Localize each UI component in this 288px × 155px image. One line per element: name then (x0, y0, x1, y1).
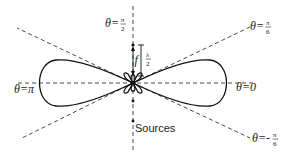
label-lambda-half: λ 2 (146, 51, 152, 68)
source-dot-center (131, 81, 135, 85)
source-dot-lower (132, 100, 135, 103)
svg-text:π: π (121, 16, 125, 24)
svg-text:π: π (266, 19, 270, 27)
radiation-pattern-diagram: f λ 2 θ= π 2 θ= π 6 θ=- π 6 θ=π θ=0 Sour… (0, 0, 288, 155)
label-theta-zero: θ=0 (236, 80, 256, 94)
lambda-dimension-bar (138, 45, 144, 76)
svg-text:6: 6 (273, 140, 277, 148)
svg-text:6: 6 (266, 28, 270, 36)
label-theta-pi-6: θ= π 6 (250, 19, 271, 36)
label-theta-pi: θ=π (14, 82, 35, 96)
label-f: f (135, 53, 140, 67)
svg-text:λ: λ (146, 51, 150, 59)
label-theta-neg-pi-6: θ=- π 6 (252, 131, 278, 148)
svg-text:θ=-: θ=- (252, 131, 270, 145)
svg-text:2: 2 (146, 60, 150, 68)
svg-text:π: π (273, 131, 277, 139)
label-theta-pi-2: θ= π 2 (105, 16, 126, 33)
source-dot-bottom (132, 120, 135, 123)
svg-text:2: 2 (121, 25, 125, 33)
svg-text:θ=: θ= (105, 16, 119, 30)
label-sources: Sources (135, 122, 176, 134)
svg-text:θ=: θ= (250, 19, 264, 33)
